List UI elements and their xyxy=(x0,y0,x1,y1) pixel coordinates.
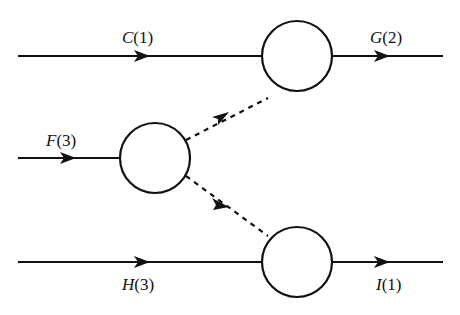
edge-c-name: C xyxy=(122,28,134,47)
edge-c-label: C(1) xyxy=(122,28,153,47)
edge-c-value: (1) xyxy=(133,28,153,47)
edge-f-value: (3) xyxy=(56,131,76,150)
edge-f-name: F xyxy=(45,131,57,150)
edge-i: I(1) xyxy=(332,256,443,294)
edge-middle-to-top xyxy=(186,98,268,140)
edge-f-label: F(3) xyxy=(45,131,76,150)
edge-i-label: I(1) xyxy=(375,275,402,294)
node-top xyxy=(262,21,332,91)
edge-f: F(3) xyxy=(18,131,120,164)
edge-g-value: (2) xyxy=(382,28,402,47)
arrow-icon xyxy=(212,112,229,125)
edge-c: C(1) xyxy=(18,28,262,62)
edge-h-value: (3) xyxy=(134,275,154,294)
edge-g-name: G xyxy=(370,28,382,47)
node-middle xyxy=(120,123,190,193)
edge-middle-to-bottom xyxy=(186,176,268,236)
edge-h: H(3) xyxy=(18,256,262,294)
node-bottom xyxy=(262,227,332,297)
edge-g: G(2) xyxy=(332,28,443,62)
edge-h-label: H(3) xyxy=(121,275,154,294)
arrow-icon xyxy=(212,198,229,210)
dashed-line xyxy=(186,98,268,140)
edge-i-value: (1) xyxy=(382,275,402,294)
flow-diagram: C(1) G(2) F(3) H(3) I(1) xyxy=(0,0,460,315)
edge-g-label: G(2) xyxy=(370,28,402,47)
